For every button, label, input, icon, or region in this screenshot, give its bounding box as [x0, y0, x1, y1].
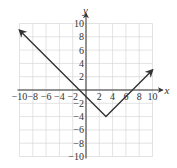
y-axis-label: y	[82, 4, 88, 16]
x-tick-label: −10	[12, 91, 28, 102]
y-tick-label: −4	[73, 111, 84, 122]
chart: −10−8−6−4−2246810108642−2−4−6−8−10 x y	[0, 0, 177, 168]
x-tick-label: 10	[148, 91, 158, 102]
x-tick-label: 2	[97, 91, 102, 102]
x-tick-label: 4	[110, 91, 115, 102]
y-tick-label: 10	[74, 18, 84, 29]
y-tick-label: −6	[73, 124, 84, 135]
y-tick-label: 8	[79, 31, 84, 42]
y-tick-label: −2	[73, 98, 84, 109]
x-tick-label: −4	[54, 91, 65, 102]
x-tick-label: −6	[41, 91, 52, 102]
x-tick-label: 8	[137, 91, 142, 102]
axes	[18, 14, 163, 159]
y-tick-label: −10	[68, 151, 84, 162]
x-tick-label: −8	[27, 91, 38, 102]
y-tick-label: 4	[79, 58, 84, 69]
y-tick-label: 2	[79, 71, 84, 82]
y-tick-label: 6	[79, 45, 84, 56]
x-axis-label: x	[164, 84, 170, 96]
y-tick-label: −8	[73, 138, 84, 149]
